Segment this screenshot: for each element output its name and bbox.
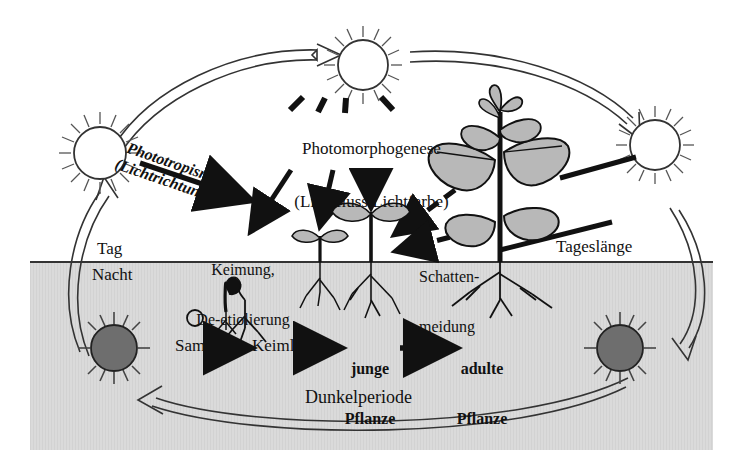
junge-line-1: junge <box>337 361 403 378</box>
sun-icon-day-top <box>324 26 402 104</box>
sun-icon-day-right <box>616 106 694 184</box>
junge-line-2: Pflanze <box>337 411 403 428</box>
adulte-line-1: adulte <box>447 361 517 378</box>
photomorphogenese-line-2: (Lichtfluss,Lichtfarbe) <box>264 193 479 211</box>
stage-keimling-label: Keimling <box>252 337 316 355</box>
stage-same-label: Same <box>175 337 213 355</box>
tag-label: Tag <box>97 240 122 258</box>
keimung-line-2: De-etiolierung <box>178 312 308 329</box>
stage-adulte-pflanze-label: adulte Pflanze <box>447 327 517 461</box>
schatten-line-1: Schatten- <box>419 269 479 286</box>
dark-sun-icon-night-right <box>584 312 656 384</box>
tageslaenge-label: Tageslänge <box>556 238 632 256</box>
photomorphogenese-label: Photomorphogenese (Lichtfluss,Lichtfarbe… <box>264 104 479 247</box>
keimung-line-1: Keimung, <box>178 262 308 279</box>
adulte-line-2: Pflanze <box>447 411 517 428</box>
photomorphogenese-line-1: Photomorphogenese <box>264 140 479 158</box>
dunkelperiode-label: Dunkelperiode <box>305 388 412 407</box>
dark-sun-icon-night-left <box>78 312 150 384</box>
nacht-label: Nacht <box>92 266 133 284</box>
diagram-canvas: Photomorphogenese (Lichtfluss,Lichtfarbe… <box>0 0 754 469</box>
